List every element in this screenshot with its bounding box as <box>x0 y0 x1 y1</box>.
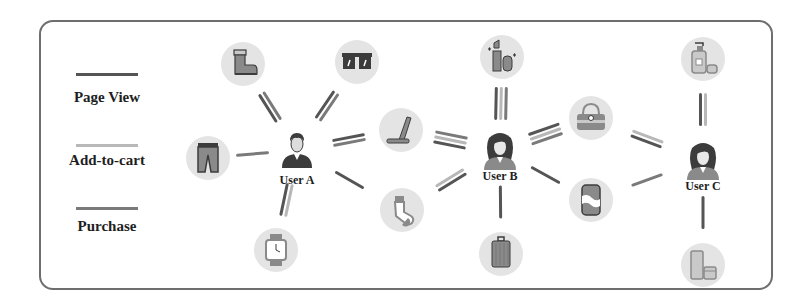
item-node-handbag <box>569 96 613 140</box>
edge-b-laptop <box>435 132 466 148</box>
item-node-sock <box>380 188 424 232</box>
edge-line-purchase <box>533 134 561 144</box>
edge-line-page-view <box>496 88 497 118</box>
edge-b-soda-can <box>532 168 558 182</box>
item-node-lipstick <box>480 35 524 79</box>
edge-a-sunglasses <box>316 92 337 120</box>
edge-c-handbag <box>632 131 662 146</box>
node-background <box>379 108 423 152</box>
item-node-soda-can <box>569 178 613 222</box>
edge-b-handbag <box>530 124 562 143</box>
user-node-c <box>687 143 719 180</box>
item-node-lotion <box>681 37 725 81</box>
user-label-c: User C <box>668 179 738 194</box>
edge-a-watch <box>281 185 292 215</box>
edge-a-sock <box>336 173 362 188</box>
soda-can-icon <box>582 185 600 215</box>
node-background <box>480 35 524 79</box>
edge-line-add-to-cart <box>634 131 662 142</box>
item-node-sunglasses <box>335 40 379 84</box>
item-node-luggage <box>479 232 523 276</box>
edge-line-page-view <box>336 173 362 188</box>
item-node-boot <box>221 42 265 86</box>
edge-c-lotion <box>701 95 706 125</box>
edge-c-soda-can <box>633 175 661 185</box>
edge-line-purchase <box>238 153 268 156</box>
luggage-icon <box>492 237 510 267</box>
edge-line-page-view <box>532 168 558 182</box>
node-background <box>335 40 379 84</box>
edge-line-page-view <box>530 124 558 134</box>
edge-line-add-to-cart <box>501 89 502 119</box>
male-user-icon <box>282 133 312 168</box>
user-label-b: User B <box>465 169 535 184</box>
user-node-b <box>484 133 516 170</box>
user-node-a <box>282 133 312 168</box>
female-user-icon <box>687 143 719 180</box>
edge-line-add-to-cart <box>531 129 559 139</box>
nodes <box>186 35 725 287</box>
item-node-laptop <box>379 108 423 152</box>
edge-a-laptop <box>334 135 364 146</box>
item-node-pants <box>186 136 230 180</box>
user-label-a: User A <box>262 173 332 188</box>
edge-line-purchase <box>633 175 661 185</box>
edge-b-sock <box>437 170 465 190</box>
edge-line-page-view <box>632 136 660 147</box>
interaction-graph <box>0 0 807 307</box>
item-node-cream <box>681 243 725 287</box>
edge-a-pants <box>238 153 268 156</box>
edge-b-lipstick <box>496 88 507 118</box>
female-user-icon <box>484 133 516 170</box>
edge-a-boot <box>260 93 280 121</box>
edge-line-purchase <box>506 89 507 119</box>
item-node-watch <box>254 228 298 272</box>
